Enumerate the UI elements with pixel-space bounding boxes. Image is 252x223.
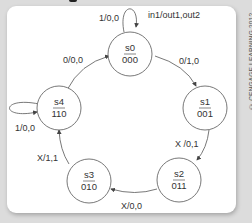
state-code: 001 [197, 108, 213, 119]
state-s1: s1 001 [183, 86, 227, 130]
state-s4: s4 110 [37, 86, 81, 130]
transition-s3-s4 [59, 130, 69, 164]
state-code: 000 [122, 54, 138, 65]
transition-label-s3-s4: X/1,1 [37, 153, 58, 163]
transition-s4-s4 [9, 102, 39, 113]
copyright-notice: © CENGAGE LEARNING 2012 [248, 13, 252, 110]
transition-label-s2-s3: X/0,0 [121, 201, 142, 211]
transition-s2-s3 [111, 189, 157, 193]
transition-label-s4-s0: 0/0,0 [63, 55, 83, 65]
legend-label: in1/out1,out2 [148, 10, 200, 20]
transition-label-s1-s2: X /0,1 [175, 139, 199, 149]
transition-label-s4-s4: 1/0,0 [15, 123, 35, 133]
state-name: s4 [54, 96, 64, 107]
state-name: s3 [84, 169, 94, 180]
transition-label-s0-s0: 1/0,0 [99, 13, 119, 23]
state-s0: s0 000 [108, 32, 152, 76]
state-diagram: s0 000 s1 001 s2 011 s3 010 s4 110 in1/o… [0, 0, 252, 223]
transition-label-s0-s1: 0/1,0 [179, 56, 199, 66]
state-s3: s3 010 [67, 159, 111, 203]
state-code: 011 [171, 180, 186, 191]
state-name: s1 [200, 96, 210, 107]
state-name: s0 [125, 42, 135, 53]
state-code: 010 [81, 181, 97, 192]
transition-s0-s0 [123, 9, 137, 32]
state-name: s2 [174, 168, 184, 179]
state-code: 110 [51, 108, 66, 119]
transition-s1-s2 [197, 130, 209, 160]
state-s2: s2 011 [157, 158, 201, 202]
